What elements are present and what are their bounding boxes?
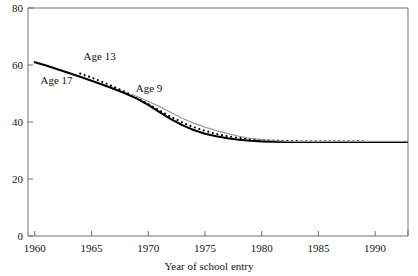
y-tick-label: 40	[0, 117, 23, 128]
axes-group	[28, 8, 408, 236]
plot-canvas	[0, 0, 418, 276]
x-tick-label: 1990	[350, 243, 400, 254]
y-tick-label: 0	[0, 231, 23, 242]
x-tick-label: 1965	[67, 243, 117, 254]
y-ticks-group	[28, 8, 33, 236]
y-tick-label: 80	[0, 3, 23, 14]
series-label-age-13: Age 13	[84, 51, 116, 62]
series-label-age-9: Age 9	[136, 83, 163, 94]
y-tick-label: 20	[0, 174, 23, 185]
x-tick-label: 1980	[237, 243, 287, 254]
x-tick-label: 1970	[123, 243, 173, 254]
series-label-age-17: Age 17	[41, 75, 73, 86]
x-axis-title: Year of school entry	[0, 260, 418, 272]
series-line-age-17	[35, 62, 407, 142]
x-tick-label: 1985	[293, 243, 343, 254]
series-group	[35, 62, 407, 142]
x-tick-label: 1960	[10, 243, 60, 254]
x-tick-label: 1975	[180, 243, 230, 254]
series-line-age-13	[80, 74, 362, 142]
x-ticks-group	[35, 231, 408, 236]
y-tick-label: 60	[0, 60, 23, 71]
chart-figure: 020406080 1960196519701975198019851990 A…	[0, 0, 418, 276]
